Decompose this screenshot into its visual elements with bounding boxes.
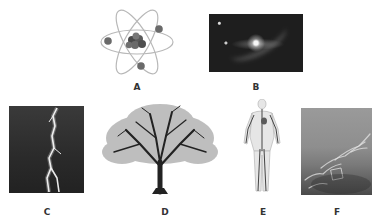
panel-d-tree <box>100 100 220 196</box>
panel-c-lightning <box>9 106 84 193</box>
atom-icon <box>96 8 178 76</box>
panel-e-circulatory <box>240 99 284 194</box>
panel-e-label: E <box>260 208 266 217</box>
panel-c-label: C <box>44 208 51 217</box>
panel-a-atom <box>96 8 178 76</box>
circulatory-system-icon <box>240 99 284 194</box>
panel-d-label: D <box>161 208 168 217</box>
panel-a-label: A <box>134 83 141 92</box>
water-icon <box>301 108 372 195</box>
tree-icon <box>100 100 220 196</box>
lightning-icon <box>9 106 84 193</box>
panel-b-label: B <box>253 83 260 92</box>
panel-b-galaxy <box>209 14 303 72</box>
galaxy-icon <box>225 17 291 68</box>
panel-f-water <box>301 108 372 195</box>
panel-f-label: F <box>334 208 340 217</box>
